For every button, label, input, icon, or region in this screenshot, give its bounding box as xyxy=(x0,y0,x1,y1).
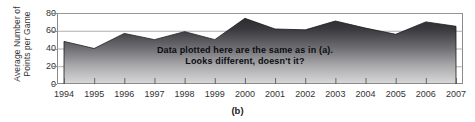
x-tick-label-1996: 1996 xyxy=(107,89,141,100)
annotation-line-1: Data plotted here are the same as in (a)… xyxy=(120,45,370,56)
x-tick-label-1995: 1995 xyxy=(77,89,111,100)
annotation-line-2: Looks different, doesn't it? xyxy=(120,56,370,67)
x-axis-tick-labels: 1994199519961997199819992000200120022003… xyxy=(57,89,463,103)
x-tick-label-2005: 2005 xyxy=(379,89,413,100)
y-tick-mark-40 xyxy=(51,49,57,50)
x-tick-label-1994: 1994 xyxy=(47,89,81,100)
y-axis-spine xyxy=(51,13,57,84)
y-axis-title: Average Number of Points per Game xyxy=(12,0,32,88)
y-tick-mark-20 xyxy=(51,66,57,67)
x-tick-label-2003: 2003 xyxy=(318,89,352,100)
x-tick-label-1997: 1997 xyxy=(137,89,171,100)
x-tick-label-2006: 2006 xyxy=(409,89,443,100)
x-tick-label-2001: 2001 xyxy=(258,89,292,100)
y-tick-mark-60 xyxy=(51,31,57,32)
x-tick-label-2000: 2000 xyxy=(228,89,262,100)
x-tick-label-2002: 2002 xyxy=(288,89,322,100)
x-tick-label-1998: 1998 xyxy=(168,89,202,100)
chart-annotation: Data plotted here are the same as in (a)… xyxy=(120,45,370,67)
y-tick-mark-0 xyxy=(51,84,57,85)
figure-panel-b: Average Number of Points per Game 020406… xyxy=(0,0,475,122)
figure-caption: (b) xyxy=(0,105,475,116)
x-tick-label-2007: 2007 xyxy=(439,89,473,100)
y-tick-mark-80 xyxy=(51,13,57,14)
x-tick-label-1999: 1999 xyxy=(198,89,232,100)
x-tick-label-2004: 2004 xyxy=(349,89,383,100)
